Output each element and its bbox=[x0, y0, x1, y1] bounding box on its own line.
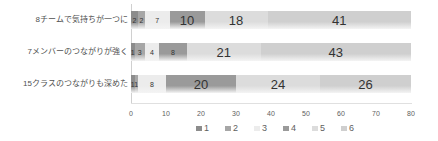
bar-row: 118202426 bbox=[131, 75, 411, 93]
bar-row: 227101841 bbox=[131, 11, 411, 29]
bar-segment-series-4: 20 bbox=[166, 75, 236, 93]
data-label: 7 bbox=[155, 17, 159, 24]
bar-segment-series-5: 21 bbox=[187, 43, 261, 61]
legend: 123456 bbox=[196, 123, 370, 133]
bar-segment-series-2: 3 bbox=[135, 43, 146, 61]
stacked-bar-chart: 8チームで気持ちが一つに7メンバーのつながりが強く15クラスのつながりも深めた … bbox=[0, 0, 438, 141]
legend-swatch-icon bbox=[283, 126, 289, 131]
legend-label: 5 bbox=[320, 123, 325, 133]
bar-segment-series-5: 24 bbox=[236, 75, 320, 93]
bar-segment-series-6: 26 bbox=[320, 75, 411, 93]
legend-swatch-icon bbox=[341, 126, 347, 131]
legend-item: 6 bbox=[341, 123, 370, 133]
x-tick-label: 0 bbox=[129, 110, 133, 117]
x-tick-label: 60 bbox=[337, 110, 345, 117]
bar-row: 13482143 bbox=[131, 43, 411, 61]
legend-swatch-icon bbox=[312, 126, 318, 131]
data-label: 8 bbox=[171, 49, 175, 56]
legend-label: 1 bbox=[204, 123, 209, 133]
legend-item: 5 bbox=[312, 123, 341, 133]
x-tick-label: 80 bbox=[407, 110, 415, 117]
data-label: 4 bbox=[150, 49, 154, 56]
data-label: 18 bbox=[229, 13, 243, 28]
bar-segment-series-3: 7 bbox=[145, 11, 170, 29]
bar-segment-series-6: 41 bbox=[268, 11, 412, 29]
legend-swatch-icon bbox=[254, 126, 260, 131]
bar-segment-series-2: 2 bbox=[138, 11, 145, 29]
data-label: 21 bbox=[217, 45, 231, 60]
legend-label: 3 bbox=[262, 123, 267, 133]
data-label: 20 bbox=[194, 77, 208, 92]
legend-item: 3 bbox=[254, 123, 283, 133]
x-tick-label: 20 bbox=[197, 110, 205, 117]
data-label: 24 bbox=[271, 77, 285, 92]
bar-segment-series-3: 8 bbox=[138, 75, 166, 93]
category-label: 8チームで気持ちが一つに bbox=[36, 15, 128, 25]
bar-segment-series-5: 18 bbox=[205, 11, 268, 29]
legend-item: 4 bbox=[283, 123, 312, 133]
x-tick-label: 70 bbox=[372, 110, 380, 117]
legend-label: 6 bbox=[349, 123, 354, 133]
data-label: 3 bbox=[138, 49, 142, 56]
category-label: 7メンバーのつながりが強く bbox=[28, 47, 128, 57]
legend-item: 2 bbox=[225, 123, 254, 133]
x-tick-label: 30 bbox=[232, 110, 240, 117]
category-label: 15クラスのつながりも深めた bbox=[23, 79, 128, 89]
legend-label: 2 bbox=[233, 123, 238, 133]
legend-item: 1 bbox=[196, 123, 225, 133]
x-axis-line bbox=[131, 103, 412, 104]
x-tick-label: 40 bbox=[267, 110, 275, 117]
bar-segment-series-4: 8 bbox=[159, 43, 187, 61]
bar-segment-series-1: 2 bbox=[131, 11, 138, 29]
data-label: 41 bbox=[332, 13, 346, 28]
data-label: 10 bbox=[180, 13, 194, 28]
bar-segment-series-3: 4 bbox=[145, 43, 159, 61]
data-label: 26 bbox=[358, 77, 372, 92]
legend-label: 4 bbox=[291, 123, 296, 133]
x-tick-label: 10 bbox=[162, 110, 170, 117]
x-tick-label: 50 bbox=[302, 110, 310, 117]
data-label: 2 bbox=[133, 17, 137, 24]
bar-segment-series-6: 43 bbox=[261, 43, 412, 61]
bar-segment-series-4: 10 bbox=[170, 11, 205, 29]
data-label: 8 bbox=[150, 81, 154, 88]
data-label: 2 bbox=[140, 17, 144, 24]
data-label: 43 bbox=[329, 45, 343, 60]
legend-swatch-icon bbox=[196, 126, 202, 131]
legend-swatch-icon bbox=[225, 126, 231, 131]
